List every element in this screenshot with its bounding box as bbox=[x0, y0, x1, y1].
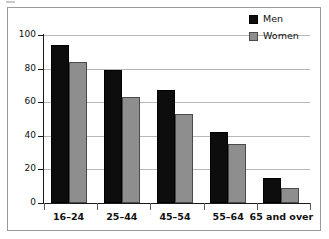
legend-swatch-women-icon bbox=[249, 32, 258, 41]
bar-men bbox=[157, 90, 175, 203]
x-axis-line bbox=[43, 203, 311, 204]
bar-women bbox=[175, 114, 193, 203]
bar-men bbox=[263, 178, 281, 203]
y-axis-tick-label: 0 bbox=[6, 198, 36, 207]
legend-label-women: Women bbox=[263, 31, 299, 41]
bar-chart: 020406080100 16–2425–4445–5455–6465 and … bbox=[0, 0, 329, 239]
legend-label-men: Men bbox=[263, 14, 283, 24]
x-axis-tick bbox=[204, 203, 205, 210]
bar-men bbox=[210, 132, 228, 203]
legend-item-women: Women bbox=[249, 29, 311, 43]
x-axis-tick bbox=[310, 203, 311, 210]
y-axis-tick-label: 40 bbox=[6, 131, 36, 140]
bar-men bbox=[104, 70, 122, 203]
y-axis-tick-label: 80 bbox=[6, 64, 36, 73]
x-axis-tick bbox=[150, 203, 151, 210]
plot-area bbox=[44, 35, 310, 203]
bar-women bbox=[281, 188, 299, 203]
bar-men bbox=[51, 45, 69, 203]
legend: Men Women bbox=[249, 12, 311, 46]
x-axis-tick-label: 65 and over bbox=[236, 211, 326, 222]
x-axis-tick bbox=[97, 203, 98, 210]
legend-swatch-men-icon bbox=[249, 15, 258, 24]
x-axis-tick bbox=[44, 203, 45, 210]
scan-artifact-mark bbox=[6, 1, 15, 3]
bar-women bbox=[69, 62, 87, 203]
y-axis-tick-label: 60 bbox=[6, 97, 36, 106]
bar-women bbox=[228, 144, 246, 203]
legend-item-men: Men bbox=[249, 12, 311, 26]
y-axis-tick-label: 100 bbox=[6, 30, 36, 39]
y-axis-tick-label: 20 bbox=[6, 164, 36, 173]
bar-women bbox=[122, 97, 140, 203]
x-axis-tick bbox=[257, 203, 258, 210]
